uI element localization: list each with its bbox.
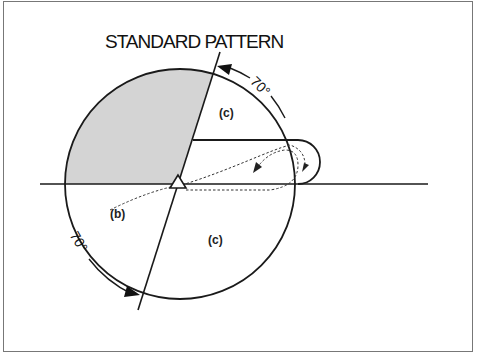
region-b-label: (b) xyxy=(110,207,125,221)
diagram-title: STANDARD PATTERN xyxy=(105,31,284,52)
region-c-lower-label: (c) xyxy=(208,233,223,247)
turn-arrow-icon xyxy=(302,163,309,172)
upper-angle-arc-2 xyxy=(271,96,285,118)
holding-racetrack xyxy=(193,140,320,184)
upper-arrowhead-icon xyxy=(217,64,232,75)
upper-angle-arc xyxy=(230,68,250,78)
holding-pattern-diagram: 70° 70° STANDARD PATTERN (c) (c) (b) xyxy=(0,0,478,355)
upper-angle-label: 70° xyxy=(247,73,273,99)
region-c-upper-label: (c) xyxy=(219,106,234,120)
